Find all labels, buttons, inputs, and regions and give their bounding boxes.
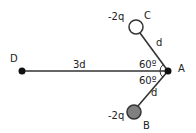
point-D-dot [19, 68, 26, 75]
point-A-label: A [178, 63, 185, 74]
point-D-label: D [10, 53, 18, 64]
angle-arc-DAB [160, 71, 163, 77]
segment-AB-length-label: d [151, 87, 157, 98]
angle-arc-DAC [160, 65, 163, 72]
point-A-dot [165, 68, 172, 75]
point-B-label: B [143, 120, 150, 131]
angle-DAB-label: 60º [139, 75, 157, 86]
charge-geometry-diagram: D A C B -2q -2q 3d d d 60º 60º [0, 0, 196, 133]
angle-DAC-label: 60º [139, 59, 157, 70]
charge-B-label: -2q [108, 110, 124, 121]
point-C-label: C [144, 10, 151, 21]
segment-DA-length-label: 3d [73, 59, 86, 70]
segment-AC-length-label: d [156, 37, 162, 48]
charge-B-circle [127, 105, 141, 119]
charge-C-label: -2q [108, 11, 124, 22]
charge-C-circle [129, 20, 143, 34]
